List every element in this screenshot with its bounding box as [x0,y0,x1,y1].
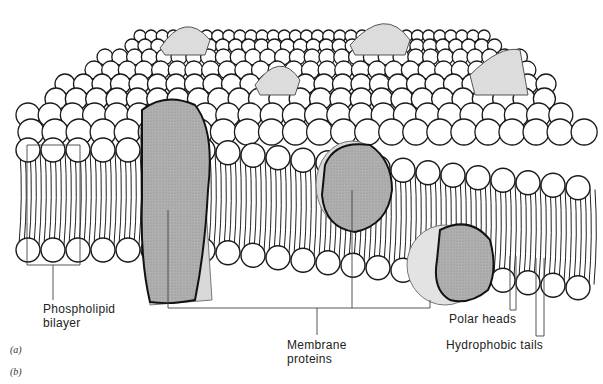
panel-label-b: (b) [10,366,22,377]
front-polar-heads [16,138,590,300]
panel-label-a: (a) [10,344,22,355]
membrane-protein-right [407,224,494,305]
label-line: Membrane [287,338,347,352]
label-phospholipid-bilayer: Phospholipid bilayer [43,302,115,330]
membrane-protein-middle [316,141,392,232]
label-polar-heads: Polar heads [449,312,516,326]
label-line: Phospholipid [43,302,115,316]
label-membrane-proteins: Membrane proteins [287,338,347,366]
transmembrane-protein-large [140,99,212,305]
label-line: bilayer [43,316,115,330]
label-line: proteins [287,352,347,366]
label-hydrophobic-tails: Hydrophobic tails [446,338,543,352]
